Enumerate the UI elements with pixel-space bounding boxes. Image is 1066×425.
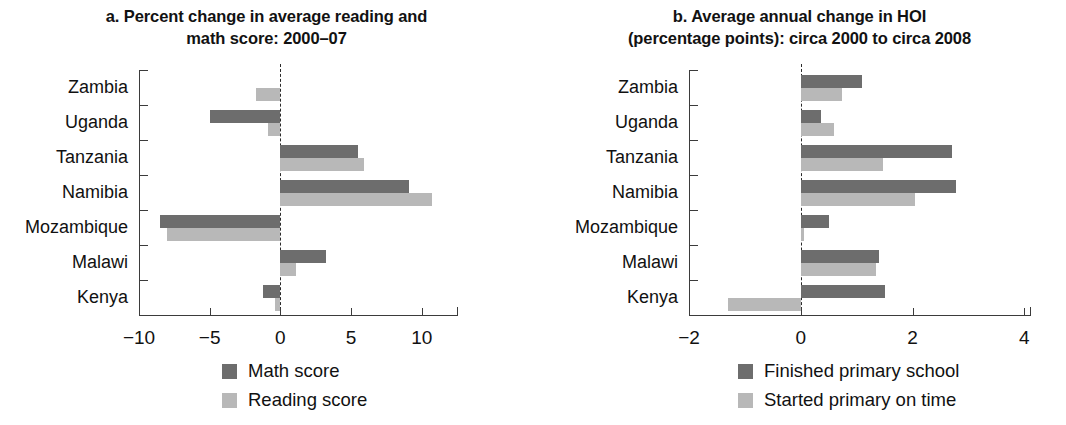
category-label-tanzania: Tanzania (606, 148, 678, 166)
category-bracket-tick (139, 210, 148, 211)
category-bracket-tick (139, 105, 148, 106)
x-axis-tick (801, 308, 802, 315)
category-axis-bracket (689, 70, 690, 315)
category-axis-bracket (139, 70, 140, 315)
x-axis-right-endcap (1030, 307, 1031, 316)
category-label-malawi: Malawi (622, 253, 678, 271)
bar-zambia-finished-primary-school (801, 75, 862, 88)
bar-uganda-finished-primary-school (801, 110, 822, 123)
category-bracket-tick (139, 280, 148, 281)
bar-tanzania-math-score (280, 145, 358, 158)
category-label-mozambique: Mozambique (25, 218, 128, 236)
x-axis-tick (280, 308, 281, 315)
x-axis-tick-label: 0 (275, 327, 286, 349)
bar-malawi-math-score (280, 250, 325, 263)
bar-kenya-finished-primary-school (801, 285, 885, 298)
bar-namibia-reading-score (280, 193, 431, 206)
x-axis-line (139, 315, 457, 316)
bar-kenya-math-score (263, 285, 280, 298)
category-bracket-tick (139, 175, 148, 176)
legend-label: Started primary on time (764, 391, 956, 410)
x-axis-tick (210, 308, 211, 315)
x-axis-tick-label: 5 (346, 327, 357, 349)
bar-mozambique-started-primary-on-time (801, 228, 804, 241)
bar-namibia-started-primary-on-time (801, 193, 916, 206)
category-label-kenya: Kenya (627, 288, 678, 306)
legend-label: Reading score (248, 391, 367, 410)
bar-namibia-finished-primary-school (801, 180, 956, 193)
category-label-zambia: Zambia (618, 78, 678, 96)
category-bracket-tick (689, 175, 698, 176)
category-bracket-tick (689, 245, 698, 246)
category-label-namibia: Namibia (62, 183, 128, 201)
category-bracket-tick (139, 245, 148, 246)
category-bracket-tick (139, 70, 148, 71)
bar-mozambique-finished-primary-school (801, 215, 829, 228)
bar-uganda-reading-score (268, 123, 281, 136)
bar-tanzania-started-primary-on-time (801, 158, 883, 171)
panel-b-legend: Finished primary schoolStarted primary o… (738, 360, 959, 418)
bar-mozambique-reading-score (167, 228, 280, 241)
bar-zambia-started-primary-on-time (801, 88, 842, 101)
category-bracket-tick (689, 210, 698, 211)
bar-mozambique-math-score (160, 215, 280, 228)
bar-tanzania-finished-primary-school (801, 145, 952, 158)
panel-a: a. Percent change in average reading and… (0, 0, 533, 425)
category-bracket-tick (689, 140, 698, 141)
category-label-namibia: Namibia (612, 183, 678, 201)
x-axis-tick (139, 308, 140, 315)
x-axis-tick (913, 308, 914, 315)
x-axis-tick (422, 308, 423, 315)
x-axis-tick-label: 10 (411, 327, 432, 349)
bar-malawi-finished-primary-school (801, 250, 879, 263)
legend-item-math-score: Math score (222, 360, 367, 382)
category-label-malawi: Malawi (72, 253, 128, 271)
category-bracket-tick (689, 105, 698, 106)
bar-uganda-started-primary-on-time (801, 123, 835, 136)
bar-uganda-math-score (210, 110, 281, 123)
category-bracket-tick (689, 70, 698, 71)
x-axis-tick-label: 4 (1019, 327, 1030, 349)
bar-malawi-reading-score (280, 263, 296, 276)
x-axis-right-endcap (457, 307, 458, 316)
legend-item-finished-primary-school: Finished primary school (738, 360, 959, 382)
category-label-uganda: Uganda (615, 113, 678, 131)
legend-swatch-icon (222, 364, 237, 379)
bar-malawi-started-primary-on-time (801, 263, 876, 276)
x-axis-tick (1024, 308, 1025, 315)
bar-kenya-started-primary-on-time (728, 298, 801, 311)
category-bracket-tick (139, 140, 148, 141)
x-axis-tick-label: 2 (907, 327, 918, 349)
legend-swatch-icon (222, 393, 237, 408)
x-axis-tick-label: −5 (199, 327, 221, 349)
legend-swatch-icon (738, 393, 753, 408)
legend-swatch-icon (738, 364, 753, 379)
legend-item-started-primary-on-time: Started primary on time (738, 389, 959, 411)
legend-label: Math score (248, 362, 340, 381)
panel-a-legend: Math scoreReading score (222, 360, 367, 418)
category-bracket-tick (689, 280, 698, 281)
figure-two-panel-bar-charts: a. Percent change in average reading and… (0, 0, 1066, 425)
category-label-mozambique: Mozambique (575, 218, 678, 236)
panel-b: b. Average annual change in HOI (percent… (533, 0, 1066, 425)
category-label-kenya: Kenya (77, 288, 128, 306)
x-axis-tick-label: 0 (796, 327, 807, 349)
x-axis-tick-label: −10 (123, 327, 155, 349)
x-axis-tick (689, 308, 690, 315)
legend-item-reading-score: Reading score (222, 389, 367, 411)
category-label-uganda: Uganda (65, 113, 128, 131)
category-label-tanzania: Tanzania (56, 148, 128, 166)
legend-label: Finished primary school (764, 362, 959, 381)
bar-namibia-math-score (280, 180, 409, 193)
bar-zambia-reading-score (256, 88, 280, 101)
x-axis-tick (351, 308, 352, 315)
bar-tanzania-reading-score (280, 158, 363, 171)
x-axis-tick-label: −2 (678, 327, 700, 349)
category-label-zambia: Zambia (68, 78, 128, 96)
x-axis-line (689, 315, 1030, 316)
